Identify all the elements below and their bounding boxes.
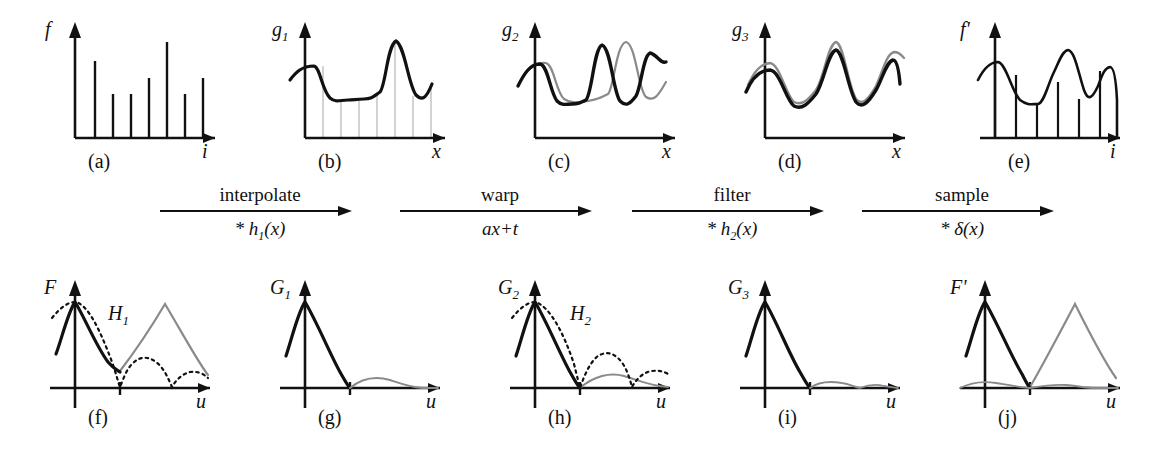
residual-curve-h [580,375,668,389]
x-axis-label-j: u [1106,390,1116,413]
spectrum-curve-i [746,302,810,388]
y-axis-arrowhead-c [529,22,541,38]
signal-label-h: G2 [498,276,519,303]
spectrum-curve-g [286,302,350,388]
arrow-sample-rule [862,205,1062,217]
panel-d-plot [690,0,920,185]
y-axis-arrowhead-b [299,22,311,38]
arrow-interpolate-bottom: * h1(x) [160,218,360,244]
axes-d [765,28,905,138]
panel-caption-e: (e) [1008,150,1030,173]
panel-c-plot [460,0,690,185]
panel-caption-c: (c) [548,150,570,173]
panel-g: G1 u (g) [230,258,460,443]
arrow-warp-top: warp [400,185,600,205]
replica-curve-j [1030,304,1116,387]
panel-caption-a: (a) [88,150,110,173]
panel-caption-f: (f) [88,406,108,429]
panel-caption-i: (i) [778,406,797,429]
y-axis-arrowhead-d [759,22,771,38]
x-axis-label-c: x [662,140,671,163]
signal-label-f: F [44,276,56,299]
filter-label-h1: H1 [108,302,129,329]
signal-label-c: g2 [502,18,519,45]
y-axis-arrowhead-g [299,280,311,296]
arrow-filter-top: filter [632,185,832,205]
arrow-filter: filter * h2(x) [632,185,832,244]
panel-caption-g: (g) [318,406,341,429]
panel-c: g2 x (c) [460,0,690,185]
arrow-warp: warp ax+t [400,185,600,240]
arrow-filter-rule [632,205,832,217]
y-axis-arrowhead-e [989,22,1001,38]
arrow-interpolate: interpolate * h1(x) [160,185,360,244]
x-axis-label-h: u [656,390,666,413]
panel-g-plot [230,258,460,443]
arrow-interpolate-top: interpolate [160,185,360,205]
interpolated-curve-b [290,41,432,101]
x-axis-label-d: x [892,140,901,163]
y-axis-arrowhead-i [759,280,771,296]
x-axis-label-a: i [202,140,208,163]
arrow-interpolate-rule [160,205,360,217]
panel-i: G3 u (i) [690,258,920,443]
panel-h-plot [460,258,690,443]
arrow-warp-bottom: ax+t [400,218,600,240]
axes-b [305,28,445,138]
signal-label-g: G1 [270,276,291,303]
signal-label-a: f [45,18,51,41]
x-axis-label-g: u [426,390,436,413]
panel-b-plot [230,0,460,185]
filtered-curve-d [746,50,900,107]
panel-b: g1 x (b) [230,0,460,185]
arrow-sample-bottom: * δ(x) [862,218,1062,240]
panel-a: f i (a) [0,0,230,185]
x-axis-label-f: u [196,390,206,413]
panel-i-plot [690,258,920,443]
y-axis-arrowhead-h [529,280,541,296]
panel-caption-h: (h) [548,406,571,429]
panel-caption-b: (b) [318,150,341,173]
y-axis-arrowhead-f [69,280,81,296]
sample-stems-e [995,63,1100,138]
residual-curve-g [350,378,438,388]
impulse-stems-a [95,42,203,138]
signal-label-d: g3 [732,18,749,45]
arrow-sample: sample * δ(x) [862,185,1062,240]
resampled-curve-e [978,50,1117,138]
x-axis-label-e: i [1110,140,1116,163]
panel-f: F H1 u (f) [0,258,230,443]
replica-curve-f [120,304,208,375]
signal-label-i: G3 [728,276,749,303]
panel-caption-j: (j) [998,406,1017,429]
spectrum-curve-j [966,302,1030,388]
arrow-warp-rule [400,205,600,217]
y-axis-arrowhead-j [979,280,991,296]
panel-caption-d: (d) [778,150,801,173]
x-axis-label-i: u [886,390,896,413]
panel-j: F' u (j) [920,258,1150,443]
arrow-sample-top: sample [862,185,1062,205]
signal-label-b: g1 [272,18,289,45]
y-axis-arrowhead-a [69,22,81,38]
arrow-filter-bottom: * h2(x) [632,218,832,244]
x-axis-label-b: x [432,140,441,163]
panel-h: G2 H2 u (h) [460,258,690,443]
panel-e: f' i (e) [920,0,1150,185]
panel-d: g3 x (d) [690,0,920,185]
signal-label-j: F' [950,276,967,299]
panel-a-plot [0,0,230,185]
filter-label-h2: H2 [570,302,591,329]
signal-label-e: f' [960,18,970,41]
resampling-pipeline-figure: f i (a) g1 x (b) [0,0,1174,470]
panel-f-plot [0,258,230,443]
